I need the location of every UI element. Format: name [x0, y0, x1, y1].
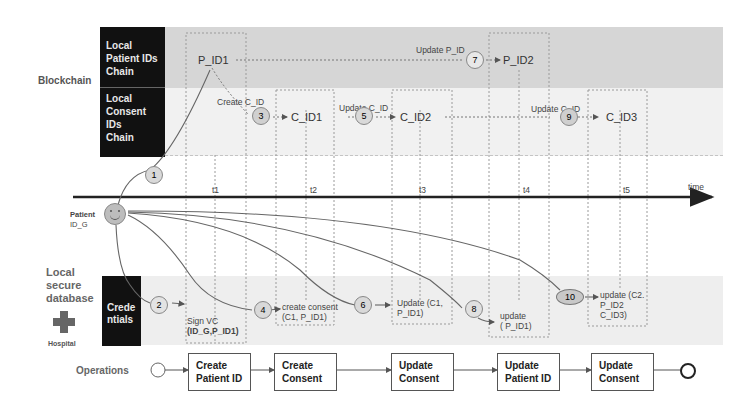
- step-4-badge: 4: [254, 301, 272, 319]
- db-entry-line: P_ID2: [600, 300, 644, 310]
- db-entry-create-consent: create consent (C1, P_ID1): [282, 302, 338, 322]
- db-entry-line: (ID_G,P_ID1): [187, 326, 239, 336]
- db-entry-update-consent: Update (C1, P_ID1): [397, 298, 443, 318]
- db-entry-update-patient: update ( P_ID1): [500, 311, 532, 331]
- time-tick-t2: t2: [310, 185, 317, 195]
- operation-label-line: Consent: [282, 372, 329, 385]
- db-entry-line: create consent: [282, 302, 338, 312]
- operation-label-line: Update: [599, 359, 646, 372]
- step-9-badge: 9: [560, 108, 578, 126]
- operation-create-consent: Create Consent: [274, 353, 337, 391]
- operation-label-line: Update: [399, 359, 446, 372]
- step-7-badge: 7: [466, 51, 484, 69]
- operation-label-line: Update: [505, 359, 552, 372]
- node-c-id1: C_ID1: [291, 111, 322, 123]
- db-entry-line: ( P_ID1): [500, 321, 532, 331]
- db-entry-line: Sign VC: [187, 316, 239, 326]
- operation-label-line: Patient ID: [505, 372, 552, 385]
- operation-update-patient-id: Update Patient ID: [497, 353, 560, 391]
- db-entry-line: P_ID1): [397, 308, 443, 318]
- edge-create-c-id: Create C_ID: [217, 97, 264, 107]
- operation-label-line: Create: [282, 359, 329, 372]
- operation-label-line: Consent: [599, 372, 646, 385]
- operation-label-line: Patient ID: [196, 372, 243, 385]
- step-2-badge: 2: [150, 296, 168, 314]
- step-8-badge: 8: [465, 300, 483, 318]
- time-axis-label: time: [688, 182, 704, 192]
- node-c-id2: C_ID2: [400, 111, 431, 123]
- time-tick-t1: t1: [212, 185, 219, 195]
- step-6-badge: 6: [354, 296, 372, 314]
- db-entry-update-consent-2: update (C2. P_ID2 C_ID3): [600, 290, 644, 320]
- operation-create-patient-id: Create Patient ID: [188, 353, 251, 391]
- operation-label-line: Create: [196, 359, 243, 372]
- db-entry-line: C_ID3): [600, 310, 644, 320]
- step-5-badge: 5: [355, 107, 373, 125]
- operation-label-line: Consent: [399, 372, 446, 385]
- operation-update-consent: Update Consent: [391, 353, 454, 391]
- time-tick-t4: t4: [523, 185, 530, 195]
- patient-smiley-icon: [104, 203, 126, 225]
- node-p-id1: P_ID1: [198, 54, 229, 66]
- operation-update-consent-2: Update Consent: [591, 353, 654, 391]
- db-entry-line: update (C2.: [600, 290, 644, 300]
- edge-update-p-id: Update P_ID: [416, 45, 465, 55]
- node-p-id2: P_ID2: [503, 54, 534, 66]
- patient-label: Patient: [70, 210, 95, 220]
- step-1-badge: 1: [145, 166, 163, 184]
- db-entry-sign-vc: Sign VC (ID_G,P_ID1): [187, 316, 239, 336]
- step-10-badge: 10: [556, 289, 584, 305]
- db-entry-line: Update (C1,: [397, 298, 443, 308]
- db-entry-line: update: [500, 311, 532, 321]
- step-3-badge: 3: [252, 107, 270, 125]
- time-tick-t3: t3: [419, 185, 426, 195]
- time-tick-t5: t5: [623, 185, 630, 195]
- node-c-id3: C_ID3: [606, 111, 637, 123]
- db-entry-line: (C1, P_ID1): [282, 312, 338, 322]
- patient-id-label: ID_G: [70, 220, 88, 230]
